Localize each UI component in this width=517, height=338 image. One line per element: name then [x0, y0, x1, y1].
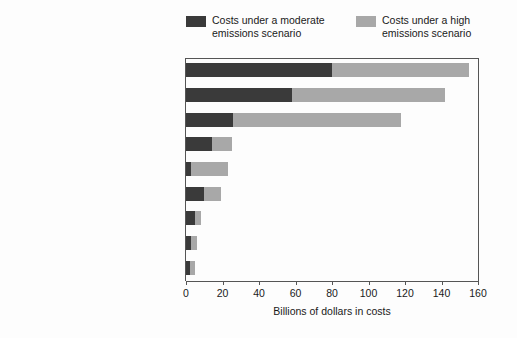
x-axis-tick [369, 281, 370, 285]
bar-row [186, 211, 201, 225]
bar-segment-moderate [186, 211, 195, 225]
x-axis-tick [223, 281, 224, 285]
x-axis-tick [186, 281, 187, 285]
bar-row [186, 63, 469, 77]
x-axis-tick-label: 80 [326, 287, 338, 299]
bar-segment-moderate [186, 137, 212, 151]
legend-swatch-high-icon [356, 16, 376, 27]
x-axis-tick [259, 281, 260, 285]
x-axis-tick [332, 281, 333, 285]
bar-segment-high [292, 88, 445, 102]
chart-legend: Costs under a moderate emissions scenari… [186, 14, 506, 39]
x-axis-tick [296, 281, 297, 285]
bar-row [186, 187, 221, 201]
x-axis-title: Billions of dollars in costs [186, 305, 478, 317]
bar-segment-high [332, 63, 469, 77]
x-axis-tick-label: 140 [433, 287, 451, 299]
x-axis-tick-label: 100 [360, 287, 378, 299]
legend-entry-moderate: Costs under a moderate emissions scenari… [186, 14, 334, 39]
bar-row [186, 261, 195, 275]
bar-segment-moderate [186, 113, 233, 127]
x-axis-tick-label: 60 [290, 287, 302, 299]
x-axis-tick-label: 160 [469, 287, 487, 299]
x-axis-tick-label: 120 [396, 287, 414, 299]
bar-segment-moderate [186, 63, 332, 77]
bar-segment-moderate [186, 88, 292, 102]
bar-segment-high [191, 236, 196, 250]
bar-segment-high [212, 137, 232, 151]
bar-segment-high [195, 211, 200, 225]
bar-row [186, 113, 401, 127]
cost-impacts-bar-chart: Costs under a moderate emissions scenari… [0, 0, 517, 338]
bar-segment-high [204, 187, 220, 201]
x-axis-tick [442, 281, 443, 285]
x-axis-tick [478, 281, 479, 285]
bar-segment-high [190, 261, 195, 275]
legend-entry-high: Costs under a high emissions scenario [356, 14, 504, 39]
bar-segment-high [233, 113, 401, 127]
bar-row [186, 137, 232, 151]
legend-label-high: Costs under a high emissions scenario [382, 14, 504, 39]
bar-row [186, 236, 197, 250]
legend-label-moderate: Costs under a moderate emissions scenari… [212, 14, 334, 39]
bar-row [186, 162, 228, 176]
x-axis-tick-label: 40 [253, 287, 265, 299]
x-axis-tick-label: 20 [217, 287, 229, 299]
x-axis-tick-label: 0 [183, 287, 189, 299]
bar-segment-high [191, 162, 228, 176]
x-axis-tick [405, 281, 406, 285]
bar-row [186, 88, 445, 102]
bar-segment-moderate [186, 187, 204, 201]
legend-swatch-moderate-icon [186, 16, 206, 27]
